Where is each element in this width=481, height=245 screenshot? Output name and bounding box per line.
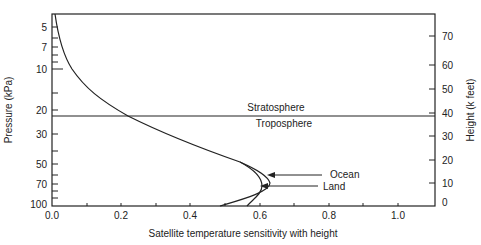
ocean-curve xyxy=(55,14,270,206)
y2-tick-label: 70 xyxy=(442,31,454,42)
y2-tick-label: 30 xyxy=(442,131,454,142)
plot-frame xyxy=(52,14,435,206)
chart: 0.0 0.2 0.4 0.6 0.8 1.0 Satellite temper… xyxy=(0,0,481,245)
y2-axis-label: Height (k feet) xyxy=(465,79,476,142)
troposphere-label: Troposphere xyxy=(256,118,313,129)
x-tick-label: 0.6 xyxy=(253,210,267,221)
y-axis-label: Pressure (kPa) xyxy=(3,77,14,144)
ocean-label: Ocean xyxy=(330,169,359,180)
y-tick-label: 70 xyxy=(36,179,48,190)
stratosphere-label: Stratosphere xyxy=(247,102,305,113)
y2-tick-label: 50 xyxy=(442,84,454,95)
x-tick-label: 0.8 xyxy=(322,210,336,221)
y-tick-label: 10 xyxy=(36,64,48,75)
y2-tick-label: 40 xyxy=(442,108,454,119)
land-label: Land xyxy=(323,181,345,192)
y-tick-label: 50 xyxy=(36,159,48,170)
x-tick-label: 1.0 xyxy=(391,210,405,221)
x-axis-label: Satellite temperature sensitivity with h… xyxy=(149,228,338,239)
y-tick-label: 7 xyxy=(41,42,47,53)
y2-tick-label: 10 xyxy=(442,178,454,189)
y2-tick-label: 20 xyxy=(442,155,454,166)
y2-tick-label: 0 xyxy=(442,197,448,208)
y-tick-label: 20 xyxy=(36,105,48,116)
y-ticks xyxy=(52,27,63,198)
x-tick-label: 0.0 xyxy=(45,210,59,221)
y2-ticks xyxy=(429,36,435,183)
y-tick-label: 30 xyxy=(36,129,48,140)
y2-tick-label: 60 xyxy=(442,60,454,71)
x-tick-label: 0.4 xyxy=(183,210,197,221)
y-tick-label: 5 xyxy=(41,22,47,33)
y-tick-label: 100 xyxy=(30,199,47,210)
x-tick-label: 0.2 xyxy=(114,210,128,221)
